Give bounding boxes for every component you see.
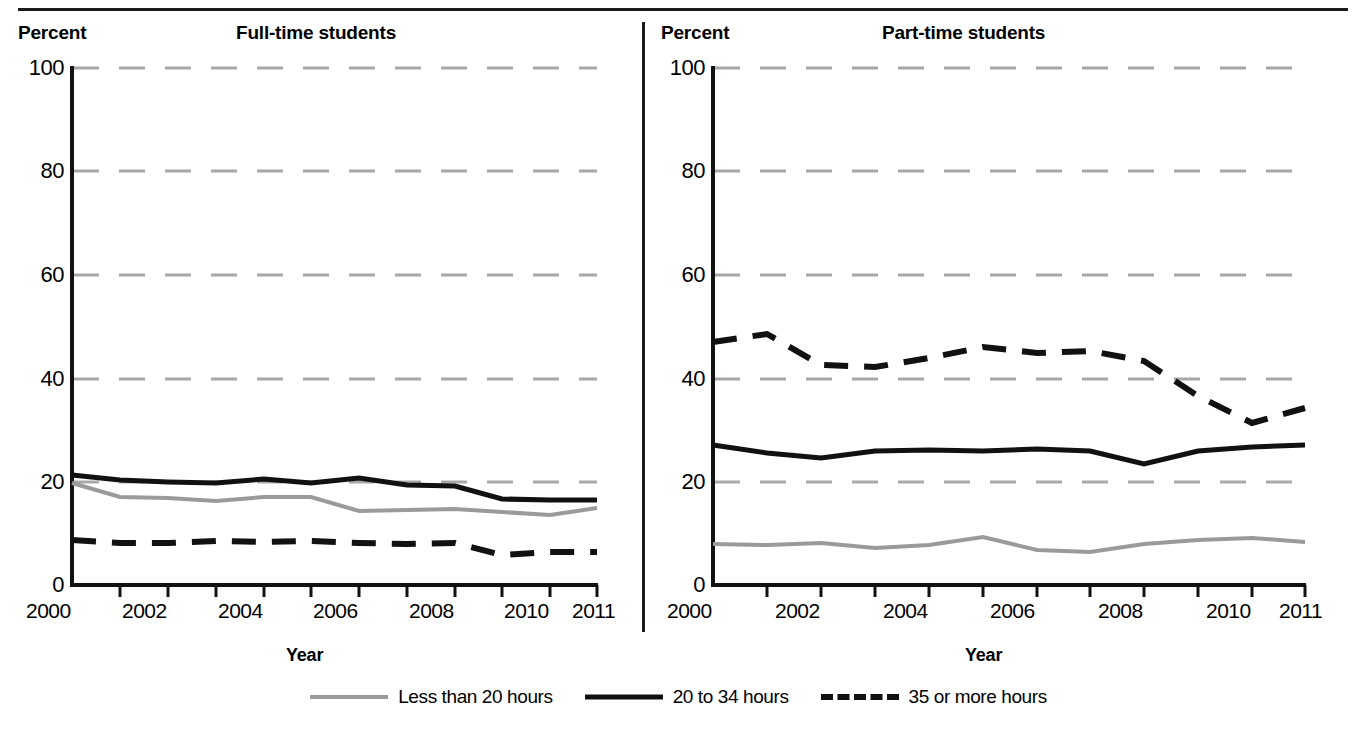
x-tick-left-2008: 2008 [409, 600, 454, 621]
y-tick-left-20: 20 [8, 471, 64, 493]
legend-swatch-solid-line-icon [585, 690, 663, 704]
chart-legend: Less than 20 hours 20 to 34 hours 35 or … [0, 686, 1357, 708]
y-tick-left-0: 0 [8, 574, 64, 596]
x-tick-left-2004: 2004 [218, 600, 263, 621]
x-tick-left-2006: 2006 [313, 600, 358, 621]
x-tick-right-2010: 2010 [1206, 600, 1251, 621]
x-tick-right-2000: 2000 [667, 600, 712, 621]
series-line-35-or-more-left [72, 540, 597, 555]
panel-full-time-students: Percent Full-time students [0, 0, 643, 700]
x-tick-left-2011: 2011 [572, 600, 615, 621]
legend-item-20-to-34-hours: 20 to 34 hours [585, 686, 789, 708]
series-line-20-to-34-right [713, 445, 1305, 464]
y-tick-right-20: 20 [649, 471, 705, 493]
legend-item-less-than-20-hours: Less than 20 hours [310, 686, 552, 708]
y-tick-right-60: 60 [649, 264, 705, 286]
y-tick-left-60: 60 [8, 264, 64, 286]
y-tick-right-0: 0 [649, 574, 705, 596]
x-axis-label-left: Year [286, 645, 323, 666]
y-tick-left-100: 100 [8, 57, 64, 79]
legend-item-35-or-more-hours: 35 or more hours [821, 686, 1047, 708]
x-tick-left-2010: 2010 [504, 600, 549, 621]
plot-area-left [0, 0, 643, 640]
gridlines-left [73, 68, 597, 482]
y-tick-left-40: 40 [8, 368, 64, 390]
plot-area-right [643, 0, 1357, 640]
series-line-less-than-20-right [713, 537, 1305, 552]
legend-label-35-or-more-hours: 35 or more hours [909, 686, 1047, 708]
y-tick-right-80: 80 [649, 160, 705, 182]
x-tick-left-2002: 2002 [122, 600, 167, 621]
x-tick-right-2006: 2006 [990, 600, 1035, 621]
y-tick-left-80: 80 [8, 160, 64, 182]
legend-swatch-grey-line-icon [310, 690, 388, 704]
x-tick-right-2008: 2008 [1098, 600, 1143, 621]
x-tick-left-2000: 2000 [26, 600, 71, 621]
x-tick-right-2004: 2004 [883, 600, 928, 621]
legend-label-20-to-34-hours: 20 to 34 hours [673, 686, 789, 708]
chart-page: Percent Full-time students [0, 0, 1357, 735]
legend-swatch-dashed-line-icon [821, 690, 899, 704]
x-tick-right-2011: 2011 [1279, 600, 1322, 621]
x-tick-right-2002: 2002 [775, 600, 820, 621]
y-tick-right-40: 40 [649, 368, 705, 390]
legend-label-less-than-20-hours: Less than 20 hours [398, 686, 552, 708]
gridlines-right [714, 68, 1305, 482]
y-tick-right-100: 100 [649, 57, 705, 79]
x-axis-label-right: Year [965, 645, 1002, 666]
panel-part-time-students: Percent Part-time students [643, 0, 1357, 700]
